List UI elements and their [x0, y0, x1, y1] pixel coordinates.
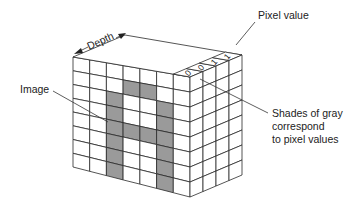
front-face-grid — [73, 57, 190, 197]
arrow-left-icon — [74, 48, 83, 54]
pixel-cube-diagram: 0011 Depth Pixel value Image Shades of g… — [0, 0, 359, 208]
shades-label-line1: Shades of gray — [272, 107, 343, 119]
pixel-value-label: Pixel value — [258, 9, 309, 21]
pixel-value-leader — [236, 22, 255, 45]
shades-label-line2: correspond — [272, 120, 325, 132]
shades-label-line3: to pixel values — [272, 133, 339, 145]
image-label: Image — [20, 83, 49, 95]
side-face-grid — [190, 55, 242, 197]
